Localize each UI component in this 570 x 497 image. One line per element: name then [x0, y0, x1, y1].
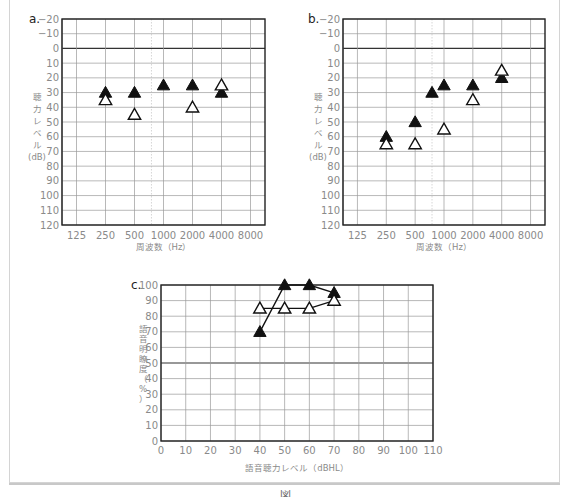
y-tick-label: 80 [327, 161, 340, 172]
y-tick-label: 80 [46, 161, 59, 172]
y-tick-label: 120 [40, 220, 59, 231]
y-tick-label: 120 [321, 220, 340, 231]
filled-triangle-marker [438, 79, 450, 90]
y-tick-label: 50 [327, 117, 340, 128]
filled-triangle-marker [467, 79, 479, 90]
x-tick-label: 2000 [180, 230, 205, 241]
y-axis-label: ベ [33, 128, 42, 138]
x-tick-label: 4000 [489, 230, 514, 241]
y-axis-label: (dB) [28, 152, 46, 162]
y-tick-label: −20 [319, 14, 340, 25]
x-tick-label: 1000 [431, 230, 456, 241]
y-axis-label: レ [314, 116, 323, 126]
y-tick-label: 0 [334, 43, 340, 54]
open-triangle-marker [467, 94, 479, 105]
x-tick-label: 50 [278, 445, 291, 456]
panel-label-b: b. [308, 12, 319, 26]
y-tick-label: 50 [46, 117, 59, 128]
filled-triangle-marker [186, 79, 198, 90]
y-axis-label: 明 [139, 344, 148, 354]
open-triangle-marker [128, 108, 140, 119]
y-tick-label: −10 [38, 28, 59, 39]
filled-triangle-marker [254, 326, 266, 337]
y-tick-label: 90 [46, 175, 59, 186]
y-tick-label: 70 [46, 146, 59, 157]
y-tick-label: 90 [327, 175, 340, 186]
x-tick-label: 60 [303, 445, 316, 456]
y-axis-label: レ [33, 116, 42, 126]
filled-triangle-marker [128, 86, 140, 97]
x-tick-label: 4000 [209, 230, 234, 241]
filled-triangle-marker [278, 279, 290, 290]
open-triangle-marker [186, 101, 198, 112]
y-tick-label: 40 [46, 102, 59, 113]
x-tick-label: 125 [67, 230, 86, 241]
y-tick-label: 100 [321, 190, 340, 201]
caption-clip: 図 [0, 490, 570, 497]
y-tick-label: 20 [46, 72, 59, 83]
chart-a: a.−20−1001020304050607080901001101201252… [28, 12, 265, 252]
open-triangle-marker [254, 302, 266, 313]
y-axis-label: % [139, 384, 147, 394]
y-tick-label: −10 [319, 28, 340, 39]
y-tick-label: 90 [145, 295, 158, 306]
x-tick-label: 500 [125, 230, 144, 241]
y-axis-label: 音 [139, 334, 148, 344]
y-tick-label: 10 [46, 58, 59, 69]
x-tick-label: 8000 [238, 230, 263, 241]
x-axis-label: 語音聴力レベル（dBHL） [245, 463, 348, 473]
open-triangle-marker [438, 123, 450, 134]
x-tick-label: 2000 [460, 230, 485, 241]
open-triangle-marker [496, 64, 508, 75]
x-tick-label: 0 [158, 445, 164, 456]
x-tick-label: 80 [352, 445, 365, 456]
chart-b: b.−20−1001020304050607080901001101201252… [308, 12, 545, 252]
y-tick-label: 110 [321, 205, 340, 216]
y-tick-label: 60 [46, 131, 59, 142]
y-tick-label: 0 [53, 43, 59, 54]
x-tick-label: 10 [179, 445, 192, 456]
x-tick-label: 125 [348, 230, 367, 241]
y-tick-label: 80 [145, 311, 158, 322]
x-tick-label: 30 [229, 445, 242, 456]
filled-triangle-marker [157, 79, 169, 90]
y-axis-label: 力 [314, 104, 323, 114]
y-tick-label: 20 [145, 404, 158, 415]
x-tick-label: 250 [96, 230, 115, 241]
y-tick-label: 10 [145, 420, 158, 431]
y-tick-label: 100 [139, 280, 158, 291]
y-axis-label: （ [139, 374, 148, 384]
x-tick-label: 90 [377, 445, 390, 456]
x-axis-label: 周波数（Hz） [136, 242, 192, 252]
y-tick-label: 30 [327, 87, 340, 98]
y-axis-label: 度 [139, 364, 148, 374]
x-tick-label: 500 [406, 230, 425, 241]
open-triangle-line [260, 301, 334, 309]
y-axis-label: ） [139, 394, 148, 404]
x-tick-label: 40 [254, 445, 267, 456]
figure-caption: 図 [0, 490, 570, 497]
y-tick-label: 110 [40, 205, 59, 216]
y-axis-label: 力 [33, 104, 42, 114]
y-tick-label: 10 [327, 58, 340, 69]
y-axis-label: ル [33, 140, 42, 150]
x-tick-label: 8000 [518, 230, 543, 241]
y-axis-label: 聴 [314, 92, 323, 102]
y-tick-label: 20 [327, 72, 340, 83]
chart-c: c.01020304050607080901000102030405060708… [131, 278, 443, 473]
figure-canvas: a.−20−1001020304050607080901001101201252… [0, 0, 570, 497]
y-axis-label: ベ [314, 128, 323, 138]
open-triangle-marker [278, 302, 290, 313]
x-axis-label: 周波数（Hz） [416, 242, 472, 252]
x-tick-label: 250 [377, 230, 396, 241]
x-tick-label: 100 [399, 445, 418, 456]
y-tick-label: 60 [327, 131, 340, 142]
filled-triangle-marker [426, 86, 438, 97]
y-tick-label: 70 [327, 146, 340, 157]
open-triangle-marker [409, 138, 421, 149]
y-axis-label: 聴 [33, 92, 42, 102]
y-axis-label: (dB) [309, 152, 327, 162]
x-tick-label: 20 [204, 445, 217, 456]
y-tick-label: 30 [46, 87, 59, 98]
x-tick-label: 1000 [151, 230, 176, 241]
